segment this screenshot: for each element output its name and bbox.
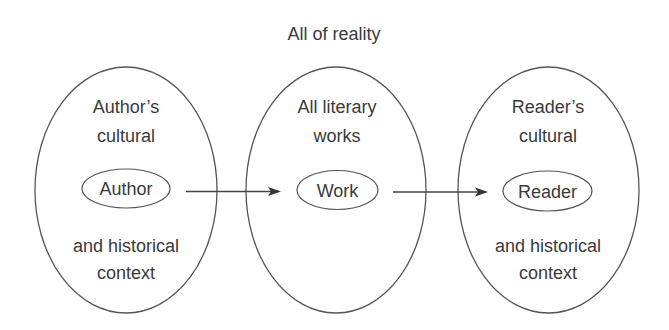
author-context-bottom-line-2: context [97,263,155,283]
literary-works-top-line-1: All literary [297,97,376,117]
literary-works-top-line-2: works [312,126,360,146]
author-context-top-line-1: Author’s [93,97,159,117]
work-node-label: Work [317,181,360,201]
diagram-title: All of reality [287,24,380,44]
author-context-bottom-line-1: and historical [73,236,179,256]
author-context-top-line-2: cultural [97,126,155,146]
reader-context-sphere: Reader’s cultural Reader and historical … [458,67,639,313]
arrow-author-to-work [186,187,281,196]
author-context-sphere: Author’s cultural Author and historical … [35,67,217,313]
author-node-label: Author [99,179,152,199]
reader-context-top-line-1: Reader’s [512,97,584,117]
reader-context-bottom-line-1: and historical [495,236,601,256]
reader-context-top-line-2: cultural [519,126,577,146]
communication-model-diagram: All of reality Author’s cultural Author … [0,0,669,330]
reader-node-label: Reader [518,182,577,202]
reader-context-bottom-line-2: context [519,263,577,283]
arrow-work-to-reader [393,188,488,197]
